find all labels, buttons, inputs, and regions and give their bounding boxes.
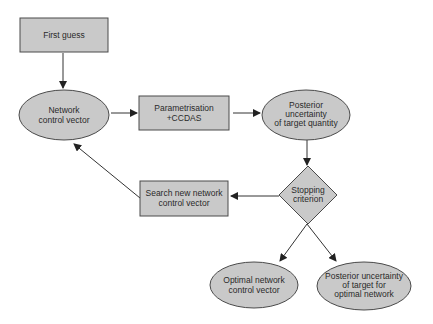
node-label: criterion — [293, 194, 324, 204]
node-label: Network — [48, 105, 80, 115]
node-first-guess: First guess — [20, 18, 108, 52]
node-stopping-criterion: Stopping criterion — [279, 166, 337, 224]
node-optimal-network: Optimal network control vector — [210, 262, 298, 308]
node-search-new: Search new network control vector — [140, 181, 228, 216]
node-network-control-vector: Network control vector — [19, 90, 109, 140]
node-label: Parametrisation — [154, 103, 214, 113]
node-label: +CCDAS — [167, 113, 202, 123]
node-label: control vector — [158, 198, 209, 208]
arrow-stopping-to-posterior-optimal — [307, 224, 336, 261]
node-label: Search new network — [145, 188, 223, 198]
node-label: First guess — [43, 30, 85, 40]
arrow-search-to-network — [74, 144, 140, 198]
node-label: optimal network — [334, 289, 394, 299]
node-label: control vector — [38, 115, 89, 125]
node-posterior-uncertainty: Posterior uncertainty of target quantity — [262, 90, 350, 140]
node-label: control vector — [228, 285, 279, 295]
node-label: of target quantity — [274, 118, 338, 128]
node-parametrisation: Parametrisation +CCDAS — [139, 96, 229, 130]
node-posterior-optimal: Posterior uncertainty of target for opti… — [317, 262, 411, 310]
arrow-stopping-to-optimal — [280, 224, 307, 261]
flowchart: First guess Network control vector Param… — [0, 0, 433, 324]
node-label: Optimal network — [223, 275, 285, 285]
